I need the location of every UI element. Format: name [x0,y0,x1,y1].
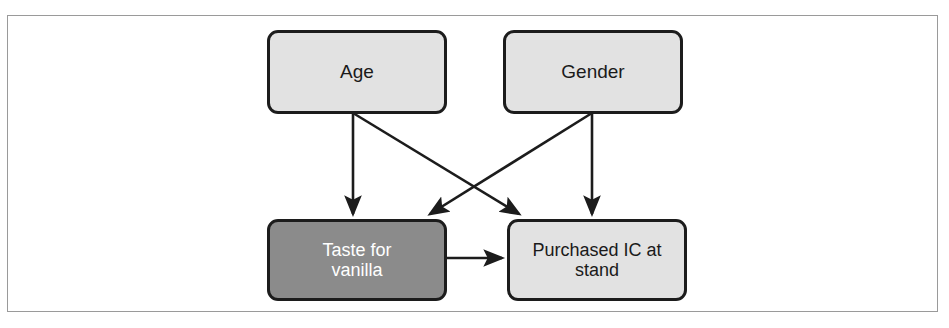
node-age: Age [267,30,447,114]
node-gender-label: Gender [553,61,632,82]
node-purchased-ic-at-stand: Purchased IC at stand [507,219,687,301]
node-age-label: Age [332,61,382,82]
node-taste-for-vanilla-label: Taste for vanilla [314,240,399,280]
node-taste-for-vanilla: Taste for vanilla [267,219,447,301]
diagram-canvas [0,0,949,328]
node-purchased-ic-at-stand-label: Purchased IC at stand [524,240,669,280]
node-gender: Gender [503,30,683,114]
edge-age-to-purchased [353,113,519,214]
edge-gender-to-taste [430,113,592,214]
